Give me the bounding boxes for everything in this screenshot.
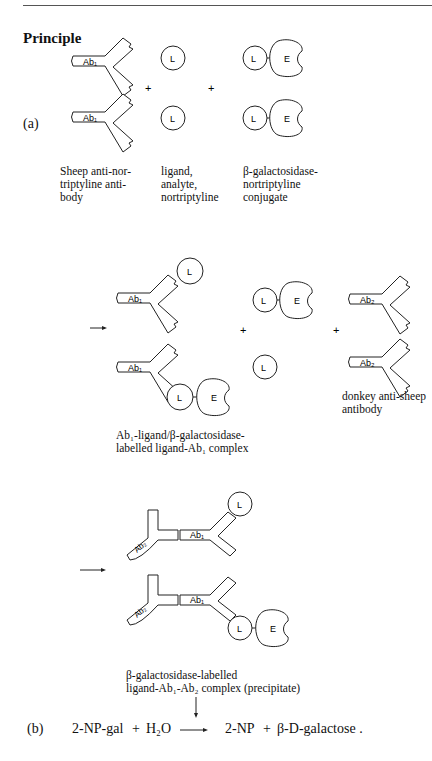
svg-text:L: L <box>237 624 242 634</box>
antibody-ab2-top: Ab₂ <box>349 276 411 334</box>
svg-text:L: L <box>251 114 256 124</box>
reactant-2: H₂O <box>146 721 171 737</box>
plus-sign: + <box>145 82 151 94</box>
free-conjugate: L E <box>253 282 312 319</box>
svg-text:Ab₁: Ab₁ <box>190 530 204 540</box>
caption-ligand: ligand, <box>161 165 219 178</box>
ligand-bottom: L <box>161 106 185 130</box>
part-b-label: (b) <box>27 721 43 737</box>
caption-antibody: Sheep anti-nor- <box>60 165 131 178</box>
diagram-canvas: Ab₁ Ab₁ L L + + L E L E Ab₁ L Ab₁ L <box>0 0 432 761</box>
svg-text:L: L <box>170 54 175 64</box>
svg-text:E: E <box>294 296 300 306</box>
svg-text:L: L <box>170 114 175 124</box>
caption-conjugate: β-galactosidase- <box>243 165 318 178</box>
svg-text:E: E <box>284 114 290 124</box>
svg-text:E: E <box>211 393 217 403</box>
svg-text:E: E <box>284 54 290 64</box>
svg-text:L: L <box>187 267 192 277</box>
plus-sign: + <box>208 82 214 94</box>
svg-text:Ab₁: Ab₁ <box>128 363 142 373</box>
free-ligand: L <box>253 355 277 379</box>
precipitate-complex-top: Ab₂ Ab₁ L E <box>127 575 288 647</box>
reactant-1: 2-NP-gal <box>72 721 123 737</box>
plus-sign: + <box>132 721 140 737</box>
antibody-ab1-top: Ab₁ <box>72 38 134 96</box>
svg-text:L: L <box>251 54 256 64</box>
ligand-top: L <box>161 46 185 70</box>
conjugate-bottom: L E <box>243 100 302 137</box>
svg-text:L: L <box>237 500 242 510</box>
svg-text:Ab₂: Ab₂ <box>360 358 375 368</box>
svg-text:Ab₁: Ab₁ <box>83 57 97 67</box>
caption-ab2: donkey anti-sheep <box>342 390 426 403</box>
antibody-ab2-bottom: Ab₂ <box>349 339 411 397</box>
svg-text:Ab₁: Ab₁ <box>128 294 142 304</box>
svg-text:L: L <box>261 296 266 306</box>
complex-ab1-ligand: Ab₁ L <box>117 258 204 333</box>
product-1: 2-NP <box>225 721 255 737</box>
svg-text:Ab₁: Ab₁ <box>190 595 204 605</box>
caption-precipitate: β-galactosidase-labelled <box>126 669 300 682</box>
plus-sign: + <box>240 324 246 336</box>
svg-text:Ab₁: Ab₁ <box>83 113 97 123</box>
precipitate-complex-top: Ab₂ Ab₁ L <box>127 492 252 560</box>
svg-text:L: L <box>177 393 182 403</box>
svg-text:Ab₂: Ab₂ <box>360 295 375 305</box>
conjugate-top: L E <box>243 40 302 77</box>
svg-text:E: E <box>270 624 276 634</box>
antibody-ab1-bottom: Ab₁ <box>72 94 134 152</box>
complex-ab1-conjugate: Ab₁ L E <box>117 344 230 416</box>
plus-sign: + <box>263 721 271 737</box>
caption-complex: Ab₁-ligand/β-galactosidase- <box>116 429 248 442</box>
product-2: β-D-galactose . <box>277 721 363 737</box>
svg-text:L: L <box>261 363 266 373</box>
plus-sign: + <box>333 324 339 336</box>
